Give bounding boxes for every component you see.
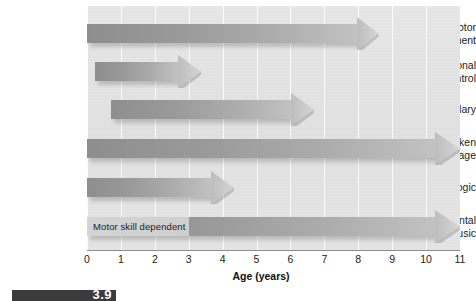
x-tick-7: 7 [312,253,336,265]
bar-shaft [95,62,178,81]
bar-shaft [87,24,358,43]
bar-vocabulary [111,100,314,119]
bar-shaft [87,178,212,197]
bar-shaft [87,139,436,158]
gridline-9 [392,6,393,251]
x-axis-title: Age (years) [0,270,476,282]
x-tick-2: 2 [143,253,167,265]
x-tick-0: 0 [75,253,99,265]
bar-emotional-control [95,62,200,81]
x-tick-10: 10 [414,253,438,265]
figure-root: MotordevelopmentEmotionalcontrolVocabula… [0,0,476,301]
bar-arrowhead [435,210,460,243]
chart-plot-area: Motor skill dependent [87,6,460,251]
bar-instrumental-music: Motor skill dependent [87,217,460,236]
bar-shaft [111,100,292,119]
x-tick-9: 9 [380,253,404,265]
bar-arrowhead [435,132,460,165]
x-tick-6: 6 [278,253,302,265]
bar-arrowhead [178,55,201,88]
x-axis-title-text: Age (years) [232,270,289,282]
x-tick-11: 11 [448,253,472,265]
bar-math-logic [87,178,235,197]
bar-motor-development [87,24,379,43]
x-axis-line [87,250,460,251]
x-tick-1: 1 [109,253,133,265]
x-tick-3: 3 [177,253,201,265]
figure-number: 3.9 [92,290,112,301]
x-tick-4: 4 [211,253,235,265]
figure-caption-strip: 3.9 [12,290,116,301]
bar-arrowhead [211,171,234,204]
x-tick-5: 5 [245,253,269,265]
bar-spoken-language [87,139,460,158]
x-tick-8: 8 [346,253,370,265]
bar-annotation-label: Motor skill dependent [87,217,189,236]
bar-arrowhead [357,17,378,50]
bar-arrowhead [291,93,314,126]
gridline-10 [426,6,427,251]
